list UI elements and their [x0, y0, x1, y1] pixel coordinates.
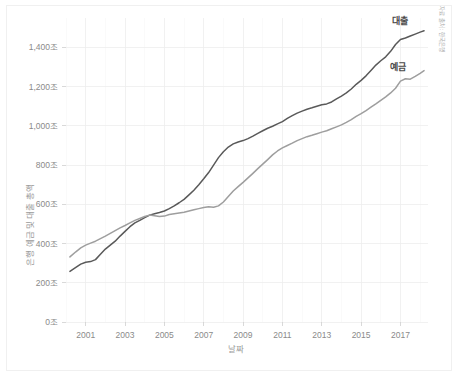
y-tick-label: 600조: [36, 199, 58, 209]
y-tick-label: 1,400조: [29, 42, 58, 52]
x-axis-title: 날짜: [228, 344, 244, 354]
y-tick-label: 1,000조: [29, 121, 58, 131]
y-axis-title: 은행 예금 및 대출 총액: [25, 184, 35, 265]
x-tick-label: 2011: [273, 330, 292, 340]
x-axis-tick-labels: 200120032005200720092011201320152017: [76, 330, 410, 340]
series-label-예금: 예금: [390, 61, 407, 72]
y-tick-label: 200조: [36, 278, 58, 288]
x-tick-label: 2005: [155, 330, 174, 340]
series-line-대출: [70, 31, 424, 272]
chart-figure: 0조200조400조600조800조1,000조1,200조1,400조 200…: [0, 0, 460, 380]
y-tick-label: 1,200조: [29, 82, 58, 92]
x-tick-label: 2017: [391, 330, 410, 340]
series-inline-labels: 대출예금: [390, 15, 408, 72]
x-tick-label: 2003: [116, 330, 135, 340]
y-tick-label: 400조: [36, 239, 58, 249]
x-tick-label: 2015: [352, 330, 371, 340]
series-line-예금: [70, 71, 424, 257]
plot-area-wrapper: 0조200조400조600조800조1,000조1,200조1,400조 200…: [0, 0, 460, 380]
tick-marks: [62, 47, 400, 326]
series-lines: [70, 31, 424, 272]
x-tick-label: 2001: [76, 330, 95, 340]
x-tick-label: 2009: [234, 330, 253, 340]
line-chart: 0조200조400조600조800조1,000조1,200조1,400조 200…: [0, 0, 460, 380]
x-tick-label: 2007: [194, 330, 213, 340]
gridlines: [66, 18, 428, 322]
x-tick-label: 2013: [312, 330, 331, 340]
y-tick-label: 0조: [45, 317, 58, 327]
series-label-대출: 대출: [392, 15, 408, 26]
source-note: 자료 출처 : 한국은행: [438, 6, 446, 52]
y-tick-label: 800조: [36, 160, 58, 170]
